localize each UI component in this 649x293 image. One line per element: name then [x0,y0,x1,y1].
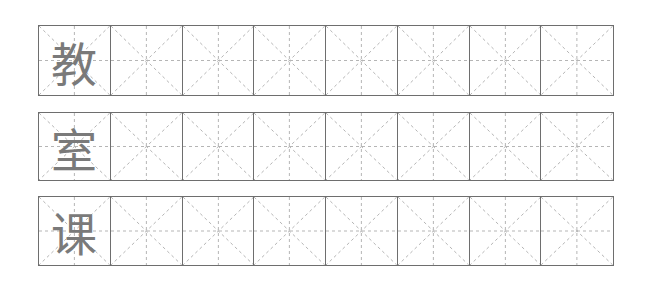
model-character: 室 [39,113,110,180]
writing-cell[interactable] [398,113,470,180]
model-character: 课 [39,197,110,265]
practice-row: 课 [38,196,614,266]
writing-cell[interactable] [541,197,613,265]
mi-grid-guide [398,26,469,95]
writing-cell[interactable] [183,113,255,180]
mi-grid-guide [541,113,613,180]
mi-grid-guide [398,113,469,180]
mi-grid-guide [541,26,613,95]
mi-grid-guide [183,26,254,95]
model-character-cell: 室 [39,113,111,180]
model-character-cell: 课 [39,197,111,265]
writing-cell[interactable] [111,197,183,265]
mi-grid-guide [111,197,182,265]
writing-cell[interactable] [254,113,326,180]
writing-cell[interactable] [183,26,255,95]
mi-grid-guide [111,26,182,95]
writing-cell[interactable] [183,197,255,265]
writing-cell[interactable] [541,26,613,95]
mi-grid-guide [254,197,325,265]
writing-cell[interactable] [541,113,613,180]
writing-cell[interactable] [254,197,326,265]
writing-cell[interactable] [326,197,398,265]
writing-cell[interactable] [326,113,398,180]
mi-grid-guide [111,113,182,180]
mi-grid-guide [470,197,541,265]
writing-cell[interactable] [470,197,542,265]
mi-grid-guide [183,197,254,265]
model-character-cell: 教 [39,26,111,95]
mi-grid-guide [326,113,397,180]
writing-cell[interactable] [470,113,542,180]
mi-grid-guide [398,197,469,265]
mi-grid-guide [326,197,397,265]
writing-cell[interactable] [111,26,183,95]
writing-cell[interactable] [111,113,183,180]
mi-grid-guide [541,197,613,265]
mi-grid-guide [470,113,541,180]
writing-cell[interactable] [254,26,326,95]
writing-cell[interactable] [326,26,398,95]
mi-grid-guide [254,26,325,95]
practice-row: 教 [38,25,614,96]
writing-cell[interactable] [470,26,542,95]
writing-cell[interactable] [398,26,470,95]
mi-grid-guide [254,113,325,180]
mi-grid-guide [183,113,254,180]
mi-grid-guide [326,26,397,95]
writing-cell[interactable] [398,197,470,265]
mi-grid-guide [470,26,541,95]
model-character: 教 [39,26,110,95]
practice-row: 室 [38,112,614,181]
